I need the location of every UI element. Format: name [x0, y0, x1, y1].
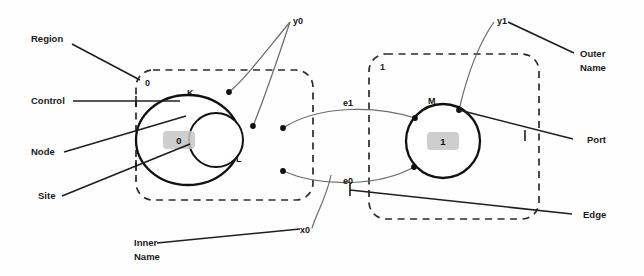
- region-0-label: 0: [145, 78, 150, 88]
- port-l-left[interactable]: [250, 123, 256, 129]
- port-m-bottom-left[interactable]: [411, 164, 417, 170]
- node-m-control-label: M: [428, 96, 436, 106]
- callout-outer-name-line2: Name: [580, 62, 606, 73]
- region-1-label: 1: [380, 62, 385, 72]
- site-1-label: 1: [440, 136, 446, 147]
- callout-line-inner-name: [157, 229, 300, 243]
- port-m-left[interactable]: [412, 115, 418, 121]
- link-x0: [312, 175, 331, 228]
- port-l-right[interactable]: [280, 125, 286, 131]
- link-y0: [229, 22, 290, 126]
- callout-control: Control: [31, 95, 65, 106]
- callout-site: Site: [38, 190, 55, 201]
- callout-port: Port: [587, 134, 607, 145]
- link-e1: [283, 109, 415, 128]
- callout-outer-name-line1: Outer: [580, 48, 606, 59]
- callout-inner-name-line2: Name: [134, 251, 160, 262]
- port-k-bottom-right[interactable]: [280, 168, 286, 174]
- callout-inner-name-line1: Inner: [134, 237, 158, 248]
- callout-node: Node: [31, 146, 55, 157]
- callout-region: Region: [31, 33, 63, 44]
- callout-line-region: [72, 44, 140, 80]
- node-l-control-label: L: [236, 154, 242, 164]
- outer-name-y1-label: y1: [497, 16, 507, 26]
- bigraph-figure: 0 1 K L M 0 1 y0 y1 x0 e1 e0: [0, 0, 644, 276]
- outer-name-y0-label: y0: [293, 16, 303, 26]
- edge-e0-label: e0: [343, 176, 353, 186]
- callout-line-outer-name: [508, 22, 574, 53]
- site-1[interactable]: 1: [427, 132, 459, 150]
- node-l[interactable]: [189, 113, 243, 167]
- link-y1: [459, 22, 494, 110]
- node-k-control-label: K: [187, 88, 194, 98]
- inner-name-x0-label: x0: [300, 225, 310, 235]
- site-0-label: 0: [176, 135, 181, 146]
- edge-e1-label: e1: [343, 98, 353, 108]
- site-0[interactable]: 0: [163, 131, 195, 149]
- callout-edge: Edge: [583, 209, 606, 220]
- port-k-top[interactable]: [226, 89, 232, 95]
